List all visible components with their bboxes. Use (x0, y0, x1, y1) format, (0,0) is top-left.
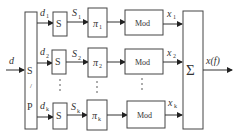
x1-label: x (166, 8, 172, 19)
modk-label: Mod (137, 111, 152, 120)
s-box-k-label: S (56, 110, 62, 121)
s1-sub: 1 (78, 14, 81, 20)
s2-label: S (72, 48, 77, 59)
block-diagram: d S / P d 1 S S 1 π 1 Mod x 1 d 2 S S 2 … (0, 0, 247, 137)
sp-slash: / (30, 82, 32, 90)
x2-label: x (166, 47, 172, 58)
dk-sub: k (46, 106, 49, 112)
sp-top-label: S (27, 65, 33, 76)
pik-sub: k (98, 116, 101, 122)
output-label: x(f) (205, 55, 221, 67)
branch-1: d 1 S S 1 π 1 Mod x 1 (37, 7, 182, 37)
xk-sub: k (174, 103, 177, 109)
mod1-label: Mod (135, 19, 150, 28)
input-label: d (9, 55, 15, 66)
d2-sub: 2 (46, 53, 49, 59)
branch-2: d 2 S S 2 π 2 Mod x 2 (37, 46, 182, 77)
s2-sub: 2 (78, 55, 81, 61)
sigma-symbol: Σ (186, 62, 195, 78)
sp-bottom-label: P (27, 101, 33, 112)
sk-sub: k (77, 108, 80, 114)
x1-sub: 1 (173, 14, 176, 20)
pi1-sub: 1 (99, 24, 102, 30)
d1-sub: 1 (46, 13, 49, 19)
s-box-2-label: S (55, 56, 61, 67)
branch-k: d k S S k π k Mod x k (37, 97, 182, 130)
pi2-sub: 2 (99, 63, 102, 69)
s1-label: S (72, 7, 77, 18)
mod2-label: Mod (135, 58, 150, 67)
xk-label: x (167, 97, 173, 108)
x2-sub: 2 (173, 53, 176, 59)
sk-label: S (71, 101, 76, 112)
ellipsis-dots (59, 78, 143, 93)
s-box-1-label: S (56, 18, 62, 29)
